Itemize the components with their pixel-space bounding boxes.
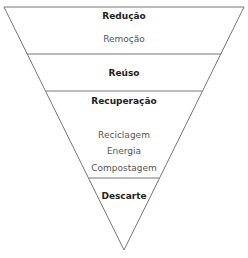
level-item-compostagem: Compostagem — [0, 163, 248, 173]
level-item-reciclagem: Reciclagem — [0, 130, 248, 140]
level-item-remocao: Remoção — [0, 34, 248, 44]
level-item-energia: Energia — [0, 146, 248, 156]
level-title-descarte: Descarte — [0, 191, 248, 201]
level-title-reducao: Redução — [0, 11, 248, 21]
level-title-reuso: Reúso — [0, 68, 248, 78]
level-title-recuperacao: Recuperação — [0, 96, 248, 106]
